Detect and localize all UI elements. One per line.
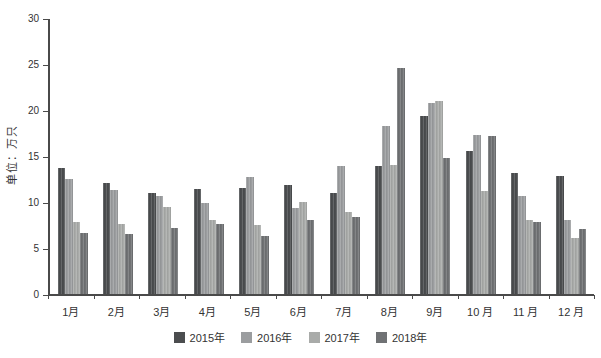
bar-2017年-6月 [299, 202, 307, 294]
bar-2015年-3月 [148, 193, 156, 294]
x-label-month-2: 2月 [94, 303, 140, 319]
x-tick-mark [367, 295, 368, 299]
x-label-month-4: 4月 [185, 303, 231, 319]
x-tick-mark [230, 295, 231, 299]
bar-group-8 [367, 19, 412, 294]
x-label-month-12: 12 月 [549, 303, 595, 319]
bar-group-4 [186, 19, 231, 294]
legend-swatch-icon [241, 332, 252, 343]
x-tick-mark [412, 295, 413, 299]
bar-group-7 [322, 19, 367, 294]
bar-2015年-1月 [58, 168, 66, 294]
bar-2015年-12 月 [556, 176, 564, 294]
bar-2018年-5月 [261, 236, 269, 294]
bar-2015年-4月 [194, 189, 202, 294]
bar-2015年-7月 [330, 193, 338, 294]
bar-group-3 [141, 19, 186, 294]
bar-2018年-2月 [125, 234, 133, 294]
bar-2017年-7月 [345, 212, 353, 294]
bar-2017年-3月 [163, 207, 171, 294]
bar-2017年-2月 [118, 224, 126, 294]
x-label-month-1: 1月 [48, 303, 94, 319]
bar-2017年-8月 [390, 165, 398, 294]
bar-2016年-10 月 [473, 135, 481, 294]
x-tick-mark [139, 295, 140, 299]
bar-2015年-2月 [103, 183, 111, 294]
legend-label: 2015年 [190, 329, 225, 345]
bar-2016年-3月 [156, 196, 164, 294]
bar-2015年-9月 [420, 116, 428, 294]
x-label-month-5: 5月 [230, 303, 276, 319]
bar-2017年-10 月 [481, 191, 489, 294]
bar-2018年-7月 [352, 217, 360, 294]
legend-label: 2016年 [257, 329, 292, 345]
bar-2016年-4月 [201, 203, 209, 294]
bar-2018年-3月 [171, 228, 179, 294]
legend-swatch-icon [376, 332, 387, 343]
bar-group-11 [503, 19, 548, 294]
bar-2018年-8月 [397, 68, 405, 294]
bar-2015年-8月 [375, 166, 383, 294]
bar-group-12 [549, 19, 594, 294]
x-tick-mark [503, 295, 504, 299]
x-tick-mark [321, 295, 322, 299]
y-tick-label: 0 [9, 290, 39, 300]
bar-2016年-7月 [337, 166, 345, 294]
bar-2015年-5月 [239, 188, 247, 294]
y-tick-label: 10 [9, 198, 39, 208]
x-tick-mark [185, 295, 186, 299]
legend-swatch-icon [174, 332, 185, 343]
legend-item-2018年: 2018年 [376, 329, 427, 345]
x-tick-mark [594, 295, 595, 299]
bar-2016年-2月 [110, 190, 118, 294]
bar-2017年-5月 [254, 225, 262, 294]
bar-2017年-11 月 [526, 220, 534, 294]
bar-2016年-6月 [292, 208, 300, 294]
legend-label: 2018年 [392, 329, 427, 345]
bar-2016年-11 月 [518, 196, 526, 294]
x-label-month-6: 6月 [276, 303, 322, 319]
legend-item-2016年: 2016年 [241, 329, 292, 345]
bar-2018年-11 月 [533, 222, 541, 294]
y-tick-label: 20 [9, 106, 39, 116]
bar-2018年-6月 [307, 220, 315, 294]
bar-2018年-12 月 [579, 229, 587, 294]
bar-2018年-10 月 [488, 136, 496, 294]
x-label-month-3: 3月 [139, 303, 185, 319]
bar-2017年-1月 [73, 222, 81, 294]
bar-group-9 [413, 19, 458, 294]
bar-group-1 [50, 19, 95, 294]
plot-area [48, 19, 594, 296]
bar-group-10 [458, 19, 503, 294]
bar-2018年-9月 [443, 158, 451, 294]
bar-group-2 [95, 19, 140, 294]
x-tick-mark [458, 295, 459, 299]
bar-2016年-9月 [428, 103, 436, 294]
chart-legend: 2015年2016年2017年2018年 [0, 329, 601, 345]
y-tick-label: 25 [9, 60, 39, 70]
x-label-month-7: 7月 [321, 303, 367, 319]
x-label-month-8: 8月 [367, 303, 413, 319]
y-tick-label: 30 [9, 14, 39, 24]
x-label-month-10: 10 月 [458, 303, 504, 319]
legend-label: 2017年 [325, 329, 360, 345]
bar-group-5 [231, 19, 276, 294]
x-axis-labels: 1月2月3月4月5月6月7月8月9月10 月11 月12 月 [48, 303, 594, 319]
bar-2016年-8月 [382, 126, 390, 294]
bar-2016年-5月 [246, 177, 254, 294]
bar-2018年-1月 [80, 233, 88, 294]
x-tick-mark [549, 295, 550, 299]
legend-item-2017年: 2017年 [309, 329, 360, 345]
bar-group-6 [277, 19, 322, 294]
bar-2015年-6月 [284, 185, 292, 294]
y-tick-label: 5 [9, 244, 39, 254]
bar-2017年-9月 [435, 101, 443, 294]
bar-2017年-12 月 [571, 238, 579, 294]
y-tick-label: 15 [9, 152, 39, 162]
legend-item-2015年: 2015年 [174, 329, 225, 345]
bar-2016年-1月 [65, 179, 73, 294]
bar-2018年-4月 [216, 224, 224, 294]
bar-chart-figure: 单位：万只 051015202530 1月2月3月4月5月6月7月8月9月10 … [0, 0, 601, 358]
x-label-month-9: 9月 [412, 303, 458, 319]
legend-swatch-icon [309, 332, 320, 343]
